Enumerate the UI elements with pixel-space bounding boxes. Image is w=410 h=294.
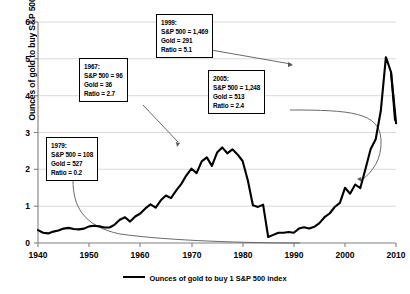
x-tick-labels: 1940 1950 1960 1970 1980 1990 2000 2010: [29, 250, 406, 260]
callout-1979-ratio: Ratio = 0.2: [51, 168, 93, 177]
axis-lines: [34, 22, 396, 247]
callout-1979-gold: Gold = 527: [51, 159, 93, 168]
callout-2005-ratio: Ratio = 2.4: [213, 101, 260, 110]
callout-1999-ratio: Ratio = 5.1: [161, 45, 208, 54]
callout-1979: 1979: S&P 500 = 108 Gold = 527 Ratio = 0…: [46, 137, 98, 181]
callout-1967: 1967: S&P 500 = 96 Gold = 36 Ratio = 2.7: [79, 58, 128, 102]
chart-legend: Ounces of gold to buy 1 S&P 500 index: [0, 274, 410, 283]
y-tick-labels: 6 5 4 3 2 1 0: [25, 17, 30, 248]
svg-text:2010: 2010: [387, 250, 406, 260]
callout-1967-gold: Gold = 36: [84, 80, 123, 89]
callout-2005-sp500: S&P 500 = 1,248: [213, 83, 260, 92]
legend-line-swatch: [123, 276, 145, 278]
callout-1999: 1999: S&P 500 = 1,469 Gold = 291 Ratio =…: [156, 14, 213, 58]
svg-text:2: 2: [25, 164, 30, 174]
svg-text:1950: 1950: [80, 250, 99, 260]
svg-text:1980: 1980: [234, 250, 253, 260]
callout-2005: 2005: S&P 500 = 1,248 Gold = 513 Ratio =…: [208, 70, 265, 114]
callout-1979-year: 1979:: [51, 141, 93, 150]
svg-text:0: 0: [25, 238, 30, 248]
callout-1999-gold: Gold = 291: [161, 36, 208, 45]
svg-text:1: 1: [25, 201, 30, 211]
svg-text:4: 4: [25, 91, 30, 101]
callout-1999-year: 1999:: [161, 18, 208, 27]
callout-1967-year: 1967:: [84, 62, 123, 71]
chart-container: Ounces of gold to buy S&P 500 index: [0, 0, 410, 294]
callout-1967-ratio: Ratio = 2.7: [84, 89, 123, 98]
svg-text:6: 6: [25, 17, 30, 27]
callout-1967-sp500: S&P 500 = 96: [84, 71, 123, 80]
callout-1999-sp500: S&P 500 = 1,469: [161, 27, 208, 36]
svg-text:1990: 1990: [285, 250, 304, 260]
svg-text:1970: 1970: [183, 250, 202, 260]
legend-label: Ounces of gold to buy 1 S&P 500 index: [149, 274, 286, 283]
callout-2005-year: 2005:: [213, 74, 260, 83]
svg-text:5: 5: [25, 54, 30, 64]
callout-2005-gold: Gold = 513: [213, 92, 260, 101]
callout-1979-sp500: S&P 500 = 108: [51, 150, 93, 159]
svg-text:2000: 2000: [336, 250, 355, 260]
svg-text:1940: 1940: [29, 250, 48, 260]
svg-text:3: 3: [25, 128, 30, 138]
svg-text:1960: 1960: [131, 250, 150, 260]
